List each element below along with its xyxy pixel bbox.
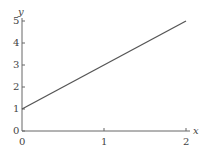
x-tick-label: 1 (101, 136, 107, 147)
y-tick-label: 4 (13, 37, 19, 48)
y-tick-label: 0 (13, 125, 19, 136)
x-tick-label: 2 (183, 136, 189, 147)
y-tick-label: 3 (13, 59, 19, 70)
y-tick-label: 2 (13, 81, 19, 92)
x-tick-label: 0 (19, 136, 25, 147)
y-tick-label: 1 (13, 103, 19, 114)
data-line (22, 21, 186, 109)
line-chart: 0 1 2 3 4 5 0 1 2 y x (0, 0, 206, 151)
x-axis-label: x (193, 125, 199, 136)
y-axis-label: y (17, 6, 24, 17)
chart-canvas: 0 1 2 3 4 5 0 1 2 y x (0, 0, 206, 151)
